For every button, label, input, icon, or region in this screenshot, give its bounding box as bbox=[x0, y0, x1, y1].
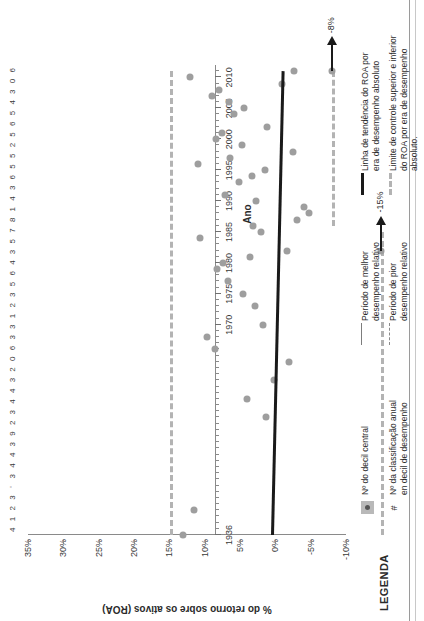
x-tick-minor bbox=[215, 194, 219, 195]
data-point bbox=[293, 216, 300, 223]
x-tick-minor bbox=[215, 342, 219, 343]
x-tick-minor bbox=[215, 237, 219, 238]
decile-rank-value: 3 bbox=[8, 442, 17, 446]
x-tick-minor bbox=[215, 466, 219, 467]
solid-thin-line-icon bbox=[361, 323, 362, 345]
x-tick-minor bbox=[215, 460, 219, 461]
data-point bbox=[225, 99, 232, 106]
x-tick-minor bbox=[215, 206, 219, 207]
decile-rank-value: 2 bbox=[8, 303, 17, 307]
data-point bbox=[220, 259, 227, 266]
data-point bbox=[286, 358, 293, 365]
x-tick-minor bbox=[215, 212, 219, 213]
decile-rank-value: 3 bbox=[8, 495, 17, 499]
x-tick-major bbox=[215, 107, 221, 108]
x-tick-minor bbox=[215, 151, 219, 152]
decile-rank-value: 6 bbox=[8, 271, 17, 275]
x-tick-minor bbox=[215, 478, 219, 479]
x-tick-minor bbox=[215, 528, 219, 529]
x-tick-minor bbox=[215, 163, 219, 164]
decile-rank-value: 7 bbox=[8, 228, 17, 232]
decile-rank-value: 3 bbox=[8, 410, 17, 414]
data-point bbox=[212, 346, 219, 353]
x-tick-minor bbox=[215, 423, 219, 424]
decile-rank-value: 3 bbox=[8, 186, 17, 190]
decile-rank-value: 3 bbox=[8, 474, 17, 478]
decile-rank-value: 0 bbox=[8, 79, 17, 83]
annotation-arrow-line bbox=[331, 45, 333, 71]
y-tick bbox=[275, 539, 276, 544]
x-tick-minor bbox=[215, 280, 219, 281]
x-tick-major bbox=[215, 76, 221, 77]
decile-rank-value: 6 bbox=[8, 122, 17, 126]
x-tick-minor bbox=[215, 386, 219, 387]
decile-rank-value: 4 bbox=[8, 463, 17, 467]
x-tick-minor bbox=[215, 509, 219, 510]
decile-rank-value: 6 bbox=[8, 68, 17, 72]
x-tick-major bbox=[215, 324, 221, 325]
legend-key bbox=[360, 321, 362, 347]
data-point bbox=[191, 507, 198, 514]
decile-rank-value: ' bbox=[8, 486, 17, 488]
x-tick-minor bbox=[215, 379, 219, 380]
rotated-chart-canvas: 4123'34439234432063312356435781436552565… bbox=[0, 0, 424, 621]
data-point bbox=[212, 136, 219, 143]
decile-rank-value: 3 bbox=[8, 292, 17, 296]
x-tick-minor bbox=[215, 503, 219, 504]
legend-item: Linha de tendência do ROA porera de dese… bbox=[360, 7, 381, 197]
data-point bbox=[214, 266, 221, 273]
x-tick-minor bbox=[215, 373, 219, 374]
legend-key bbox=[388, 171, 392, 197]
x-tick-minor bbox=[215, 497, 219, 498]
x-tick-label: 1970 bbox=[224, 315, 234, 335]
x-tick-minor bbox=[215, 305, 219, 306]
data-point bbox=[222, 191, 229, 198]
legend-label: Período de melhordesempenho relativo bbox=[360, 242, 381, 321]
x-tick-minor bbox=[215, 441, 219, 442]
decile-rank-row: 4123'34439234432063312356435781436552565… bbox=[8, 65, 22, 535]
decile-rank-value: 1 bbox=[8, 517, 17, 521]
decile-rank-value: 4 bbox=[8, 399, 17, 403]
plot-area: 1936197019751980198519901995200020052010… bbox=[28, 65, 346, 535]
x-tick-minor bbox=[215, 522, 219, 523]
x-tick-minor bbox=[215, 454, 219, 455]
legend-key: # bbox=[388, 495, 399, 521]
decile-rank-value: 1 bbox=[8, 207, 17, 211]
data-point bbox=[227, 154, 234, 161]
data-point bbox=[231, 111, 238, 118]
decile-rank-value: 5 bbox=[8, 132, 17, 136]
legend-label: Período de piordesempenho relativo bbox=[388, 242, 409, 321]
x-tick-major bbox=[215, 534, 221, 535]
y-axis-title: % do retorno sobre os ativos (ROA) bbox=[28, 599, 346, 615]
hash-icon: # bbox=[389, 506, 399, 511]
x-tick-label: 1936 bbox=[224, 525, 234, 545]
data-point bbox=[290, 148, 297, 155]
x-tick-minor bbox=[215, 311, 219, 312]
x-tick-major bbox=[215, 169, 221, 170]
legend-key bbox=[360, 171, 364, 197]
legend-label: Nº do decil central bbox=[360, 426, 371, 495]
x-tick-minor bbox=[215, 429, 219, 430]
y-tick bbox=[28, 539, 29, 544]
x-tick-major bbox=[215, 200, 221, 201]
decile-rank-value: 4 bbox=[8, 527, 17, 531]
decile-rank-value: 4 bbox=[8, 100, 17, 104]
x-tick-minor bbox=[215, 83, 219, 84]
data-point bbox=[259, 321, 266, 328]
data-point bbox=[300, 204, 307, 211]
y-tick bbox=[63, 539, 64, 544]
decile-rank-value: 5 bbox=[8, 239, 17, 243]
decile-rank-value: 5 bbox=[8, 282, 17, 286]
annotation-label: -8% bbox=[326, 17, 336, 33]
x-tick-minor bbox=[215, 219, 219, 220]
decile-rank-value: 1 bbox=[8, 314, 17, 318]
legend-label: Limite de controle superior e inferiordo… bbox=[388, 35, 420, 171]
decile-rank-value: 3 bbox=[8, 378, 17, 382]
dashed-thick-line-icon bbox=[389, 173, 392, 195]
x-tick-minor bbox=[215, 367, 219, 368]
data-point bbox=[306, 210, 313, 217]
data-point bbox=[219, 130, 226, 137]
decile-rank-value: 4 bbox=[8, 260, 17, 264]
x-tick-label: 1985 bbox=[224, 222, 234, 242]
x-tick-minor bbox=[215, 101, 219, 102]
